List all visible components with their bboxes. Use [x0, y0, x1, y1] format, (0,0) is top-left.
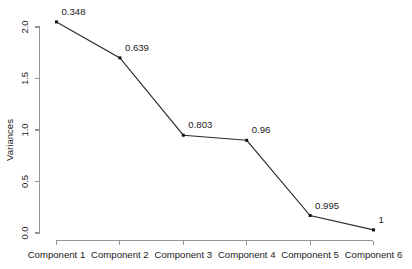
data-point-label-2: 0.639: [125, 42, 149, 53]
data-point-2: [118, 56, 121, 59]
x-tick-label-4: Component 5: [281, 249, 339, 260]
data-point-5: [309, 214, 312, 217]
data-point-label-6: 1: [379, 214, 384, 225]
x-tick-label-2: Component 3: [154, 249, 212, 260]
y-tick-label-4: 2.0: [19, 20, 30, 33]
y-tick-label-0: 0.0: [19, 226, 30, 239]
y-tick-label-1: 0.5: [19, 175, 30, 188]
x-tick-label-1: Component 2: [91, 249, 149, 260]
data-point-label-1: 0.348: [62, 6, 86, 17]
data-point-3: [182, 134, 185, 137]
scree-plot: 0.0 0.5 1.0 1.5 2.0 Variances Component …: [0, 0, 412, 269]
data-point-1: [55, 20, 58, 23]
data-point-label-3: 0.803: [188, 119, 212, 130]
x-tick-label-3: Component 4: [218, 249, 276, 260]
y-tick-label-3: 1.5: [19, 72, 30, 85]
data-point-label-5: 0.995: [315, 200, 339, 211]
x-tick-label-0: Component 1: [28, 249, 86, 260]
y-axis-title: Variances: [4, 119, 15, 161]
data-point-6: [372, 228, 375, 231]
plot-canvas: 0.0 0.5 1.0 1.5 2.0 Variances Component …: [0, 0, 412, 269]
data-point-label-4: 0.96: [252, 124, 271, 135]
variance-point-labels: 0.3480.6390.8030.960.9951: [62, 6, 384, 225]
data-point-4: [245, 139, 248, 142]
y-tick-label-2: 1.0: [19, 123, 30, 136]
x-tick-label-5: Component 6: [345, 249, 403, 260]
